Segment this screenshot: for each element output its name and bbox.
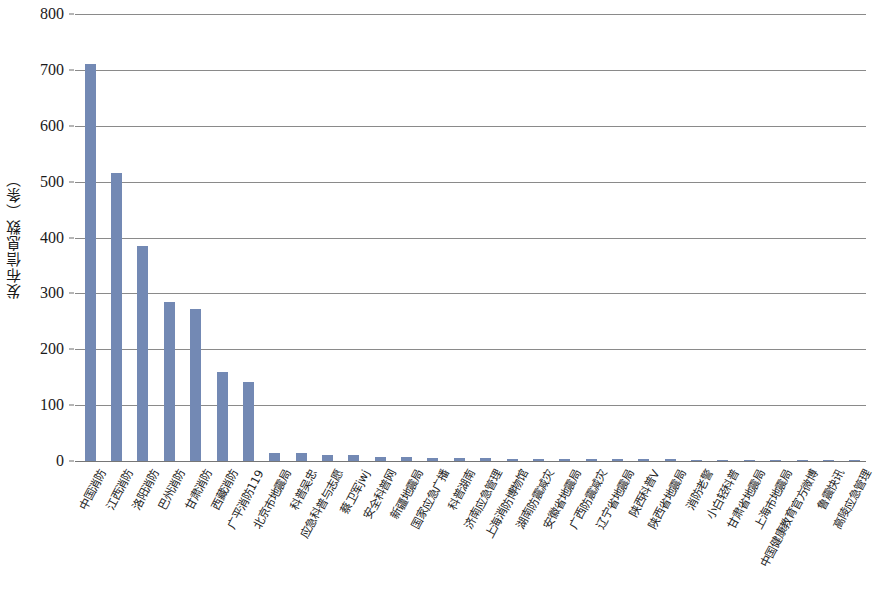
y-axis-tick-mark xyxy=(69,14,74,15)
y-axis-tick-mark xyxy=(69,293,74,294)
bar xyxy=(559,459,570,461)
bar xyxy=(638,459,649,461)
bar xyxy=(480,458,491,461)
x-axis-ticks: 中国消防江西消防洛阳消防巴州消防甘肃消防西藏消防广平消防119北京市地震局科普吴… xyxy=(75,462,866,606)
y-axis-tick-label: 200 xyxy=(40,341,64,357)
y-axis-tick-mark xyxy=(69,461,74,462)
bar xyxy=(190,309,201,461)
y-axis-tick-label: 500 xyxy=(40,174,64,190)
bar xyxy=(217,372,228,461)
bar xyxy=(454,458,465,461)
y-axis-tick-mark xyxy=(69,405,74,406)
bar xyxy=(533,459,544,461)
y-axis-tick-label: 0 xyxy=(56,453,64,469)
bar xyxy=(849,460,860,461)
bar xyxy=(137,246,148,461)
bar xyxy=(717,460,728,461)
bar xyxy=(665,459,676,461)
y-axis-tick-label: 400 xyxy=(40,230,64,246)
bar xyxy=(375,457,386,461)
y-axis-tick-mark xyxy=(69,125,74,126)
bar xyxy=(744,460,755,461)
bars-layer xyxy=(75,0,866,470)
y-axis-tick-label: 100 xyxy=(40,397,64,413)
bar xyxy=(770,460,781,461)
bar xyxy=(427,458,438,461)
bar xyxy=(507,459,518,461)
bar xyxy=(243,382,254,461)
plot-area xyxy=(75,0,866,470)
bar xyxy=(586,459,597,461)
bar xyxy=(797,460,808,461)
bar xyxy=(111,173,122,461)
y-axis-ticks: 8007006005004003002001000 xyxy=(26,0,70,470)
bar xyxy=(691,460,702,461)
y-axis-tick-label: 800 xyxy=(40,6,64,22)
y-axis-title-label: 发布信息数（条） xyxy=(3,171,24,299)
y-axis-tick-mark xyxy=(69,69,74,70)
bar xyxy=(348,455,359,461)
y-axis-tick-label: 300 xyxy=(40,285,64,301)
bar xyxy=(401,457,412,461)
bar xyxy=(296,453,307,461)
y-axis-tick-mark xyxy=(69,181,74,182)
y-axis-tick-label: 600 xyxy=(40,118,64,134)
bar xyxy=(612,459,623,461)
bar xyxy=(164,302,175,461)
y-axis-tick-label: 700 xyxy=(40,62,64,78)
bar xyxy=(269,453,280,461)
bar xyxy=(322,455,333,461)
bar xyxy=(823,460,834,461)
bar xyxy=(85,64,96,461)
y-axis-title: 发布信息数（条） xyxy=(0,0,26,470)
y-axis-tick-mark xyxy=(69,349,74,350)
y-axis-tick-mark xyxy=(69,237,74,238)
